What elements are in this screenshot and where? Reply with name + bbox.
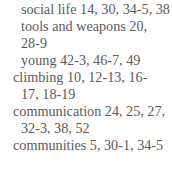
- index-entry-continuation: 17, 18-19: [21, 86, 75, 103]
- index-subentry-continuation: 28-9: [21, 35, 47, 52]
- index-subentry-tools-and-weapons: tools and weapons 20,: [21, 18, 147, 35]
- index-entry-communities: communities 5, 30-1, 34-5: [13, 137, 163, 154]
- index-entry-communication: communication 24, 25, 27,: [13, 103, 165, 120]
- index-subentry-social-life: social life 14, 30, 34-5, 38: [21, 1, 170, 18]
- index-entry-continuation: 32-3, 38, 52: [21, 120, 90, 137]
- index-subentry-young: young 42-3, 46-7, 49: [21, 52, 140, 69]
- index-entry-climbing: climbing 10, 12-13, 16-: [13, 69, 147, 86]
- index-page: social life 14, 30, 34-5, 38 tools and w…: [0, 0, 172, 172]
